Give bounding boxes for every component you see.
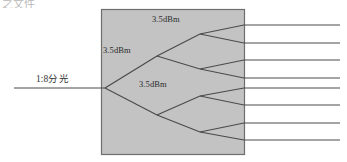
- power-label-stage1: 3.5dBm: [152, 14, 180, 24]
- power-label-stage2: 3.5dBm: [103, 45, 131, 55]
- diagram-page: 之文件 1:8分光: [0, 0, 347, 162]
- power-label-stage3: 3.5dBm: [139, 79, 167, 89]
- splitter-box: [102, 10, 245, 155]
- input-label: 1:8分光: [36, 71, 69, 85]
